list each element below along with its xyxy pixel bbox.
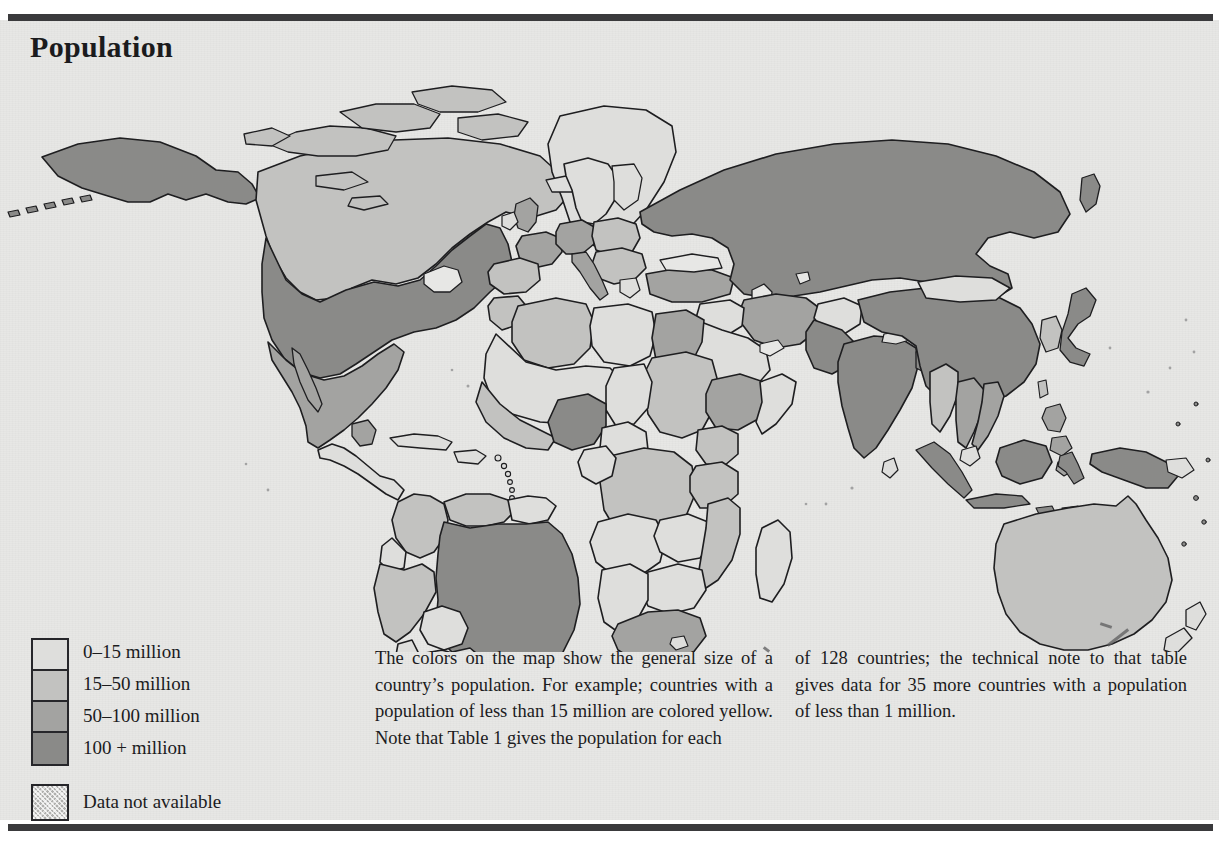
region-somalia bbox=[756, 374, 796, 434]
legend-swatch-2 bbox=[33, 702, 67, 733]
region-guianas bbox=[508, 496, 556, 524]
legend-label-1: 15–50 million bbox=[83, 673, 190, 695]
caption-column-1: The colors on the map show the general s… bbox=[375, 645, 773, 751]
region-black-sea bbox=[660, 254, 722, 272]
region-turkey bbox=[646, 268, 734, 302]
caption-column-2: of 128 countries; the technical note to … bbox=[795, 645, 1187, 725]
legend-swatch-stack bbox=[31, 638, 69, 766]
region-sri-lanka bbox=[882, 458, 898, 478]
region-greece bbox=[620, 278, 640, 298]
region-yucatan bbox=[352, 420, 376, 446]
region-chad bbox=[606, 364, 652, 426]
region-malaysia bbox=[960, 446, 980, 466]
region-madagascar bbox=[756, 520, 792, 602]
region-aleutian-islands bbox=[8, 195, 92, 217]
region-borneo bbox=[996, 440, 1052, 484]
region-libya bbox=[590, 304, 656, 366]
world-map-svg bbox=[0, 52, 1219, 652]
legend-label-0: 0–15 million bbox=[83, 641, 181, 663]
region-new-guinea bbox=[1090, 448, 1178, 488]
legend-swatch-0 bbox=[33, 640, 67, 671]
legend-swatch-no-data bbox=[31, 784, 69, 821]
region-taiwan bbox=[1038, 380, 1048, 398]
legend-swatch-1 bbox=[33, 671, 67, 702]
region-alaska bbox=[42, 138, 260, 204]
page-root: Population bbox=[0, 0, 1219, 856]
region-hispaniola bbox=[454, 450, 486, 464]
region-algeria bbox=[512, 298, 594, 368]
legend-swatch-3 bbox=[33, 733, 67, 764]
bottom-rule bbox=[8, 824, 1213, 831]
legend-label-no-data: Data not available bbox=[83, 791, 221, 813]
region-myanmar bbox=[930, 364, 958, 432]
caption-text-1: The colors on the map show the general s… bbox=[375, 645, 773, 751]
region-kenya bbox=[696, 426, 738, 466]
region-lesser-antilles bbox=[495, 455, 514, 500]
legend-label-3: 100 + million bbox=[83, 737, 187, 759]
region-zimbabwe-botswana bbox=[640, 564, 706, 614]
top-rule bbox=[8, 14, 1213, 21]
region-sulawesi bbox=[1058, 452, 1084, 484]
region-venezuela bbox=[444, 494, 514, 526]
region-germany bbox=[556, 220, 596, 254]
region-central-america bbox=[318, 444, 404, 500]
region-australia bbox=[994, 496, 1172, 650]
region-india bbox=[838, 336, 918, 458]
region-kamchatka bbox=[1080, 174, 1100, 212]
region-java bbox=[966, 494, 1030, 508]
region-korea bbox=[1040, 316, 1062, 352]
region-mongolia bbox=[918, 276, 1010, 302]
world-map bbox=[0, 52, 1219, 652]
region-bolivia bbox=[420, 606, 468, 650]
region-spain-portugal bbox=[488, 258, 540, 294]
caption-text-2: of 128 countries; the technical note to … bbox=[795, 645, 1187, 725]
region-ireland bbox=[502, 212, 518, 230]
legend-label-2: 50–100 million bbox=[83, 705, 200, 727]
region-japan bbox=[1060, 288, 1096, 366]
region-mozambique bbox=[698, 498, 740, 588]
region-cuba bbox=[390, 434, 452, 450]
region-nigeria bbox=[548, 394, 606, 450]
region-united-kingdom bbox=[514, 198, 538, 232]
